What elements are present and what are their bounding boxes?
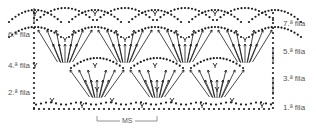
chain-stitch <box>113 9 115 11</box>
chain-stitch <box>206 58 208 60</box>
chain-stitch <box>110 101 112 103</box>
chain-stitch <box>92 19 94 21</box>
chain-stitch <box>254 16 256 18</box>
chain-stitch <box>237 34 239 36</box>
chain-stitch <box>120 103 122 105</box>
chain-stitch <box>91 9 93 11</box>
chain-stitch <box>219 57 221 59</box>
chain-stitch <box>147 10 149 12</box>
treble-stitch <box>222 70 235 97</box>
chain-stitch <box>293 32 295 34</box>
chain-stitch <box>251 8 253 10</box>
chain-stitch <box>131 34 133 36</box>
chain-stitch <box>287 28 289 30</box>
chain-stitch <box>145 102 147 104</box>
chain-stitch <box>220 10 222 12</box>
chain-stitch <box>210 103 212 105</box>
chain-stitch <box>80 101 82 103</box>
chain-stitch <box>39 16 41 18</box>
chain-stitch <box>68 108 70 110</box>
chain-stitch <box>44 11 46 13</box>
chain-stitch <box>233 108 235 110</box>
chain-stitch <box>191 18 193 20</box>
chain-stitch <box>115 102 117 104</box>
chain-stitch <box>113 108 115 110</box>
chain-stitch <box>228 108 230 110</box>
row-label-3: 3.ª fila <box>283 75 305 83</box>
chain-stitch <box>227 12 229 14</box>
chain-stitch <box>194 9 196 11</box>
chain-stitch <box>71 8 73 10</box>
chain-stitch <box>267 27 269 29</box>
chain-stitch <box>159 57 161 59</box>
chain-stitch <box>108 108 110 110</box>
chain-stitch <box>216 19 218 21</box>
chain-stitch <box>213 57 215 59</box>
chain-stitch <box>153 108 155 110</box>
chain-stitch <box>272 42 274 44</box>
chain-stitch <box>78 108 80 110</box>
v-stitch <box>153 63 157 68</box>
treble-stitch <box>162 70 175 97</box>
treble-stitch <box>218 30 238 62</box>
chain-stitch <box>143 108 145 110</box>
chain-stitch <box>75 102 77 104</box>
chain-stitch <box>118 108 120 110</box>
chain-stitch <box>180 36 182 38</box>
chain-stitch <box>170 101 172 103</box>
chain-stitch <box>182 67 184 69</box>
chain-stitch <box>178 108 180 110</box>
chain-stitch <box>33 67 35 69</box>
chain-stitch <box>130 67 132 69</box>
chain-stitch <box>104 11 106 13</box>
chain-stitch <box>162 58 164 60</box>
chain-stitch <box>177 8 179 10</box>
chain-stitch <box>218 108 220 110</box>
chain-stitch <box>242 67 244 69</box>
chain-stitch <box>237 18 239 20</box>
chain-stitch <box>71 34 73 36</box>
chain-stitch <box>268 108 270 110</box>
chain-stitch <box>258 108 260 110</box>
chain-stitch <box>258 10 260 12</box>
chain-stitch <box>47 12 49 14</box>
chain-stitch <box>144 11 146 13</box>
chain-stitch <box>215 104 217 106</box>
treble-stitch <box>98 30 118 62</box>
repeat-label: MS <box>120 117 135 124</box>
treble-stitch <box>133 30 153 62</box>
chain-stitch <box>260 101 262 103</box>
chain-stitch <box>96 57 98 59</box>
chain-stitch <box>148 108 150 110</box>
v-stitch <box>243 37 247 42</box>
chain-stitch <box>27 10 29 12</box>
chain-stitch <box>164 27 166 29</box>
chain-stitch <box>233 32 235 34</box>
chain-stitch <box>88 16 90 18</box>
chain-stitch <box>180 7 182 9</box>
chain-stitch <box>216 57 218 59</box>
chain-stitch <box>255 102 257 104</box>
chain-stitch <box>280 10 282 12</box>
chain-stitch <box>110 14 112 16</box>
chain-stitch <box>120 36 122 38</box>
chain-stitch <box>191 8 193 10</box>
v-stitch <box>140 103 144 108</box>
chain-stitch <box>160 27 162 29</box>
chain-stitch <box>240 36 242 38</box>
chain-stitch <box>264 27 266 29</box>
chain-stitch <box>165 102 167 104</box>
v-stitch <box>200 103 204 108</box>
chain-stitch <box>265 14 267 16</box>
chain-stitch <box>290 30 292 32</box>
chain-stitch <box>53 16 55 18</box>
row-label-7: 7.ª fila <box>283 20 305 28</box>
chain-stitch <box>113 32 115 34</box>
chain-stitch <box>272 17 274 19</box>
chain-stitch <box>103 14 105 16</box>
chain-stitch <box>119 65 121 67</box>
chain-stitch <box>284 11 286 13</box>
chain-stitch <box>204 11 206 13</box>
chain-stitch <box>47 28 49 30</box>
chain-stitch <box>78 10 80 12</box>
